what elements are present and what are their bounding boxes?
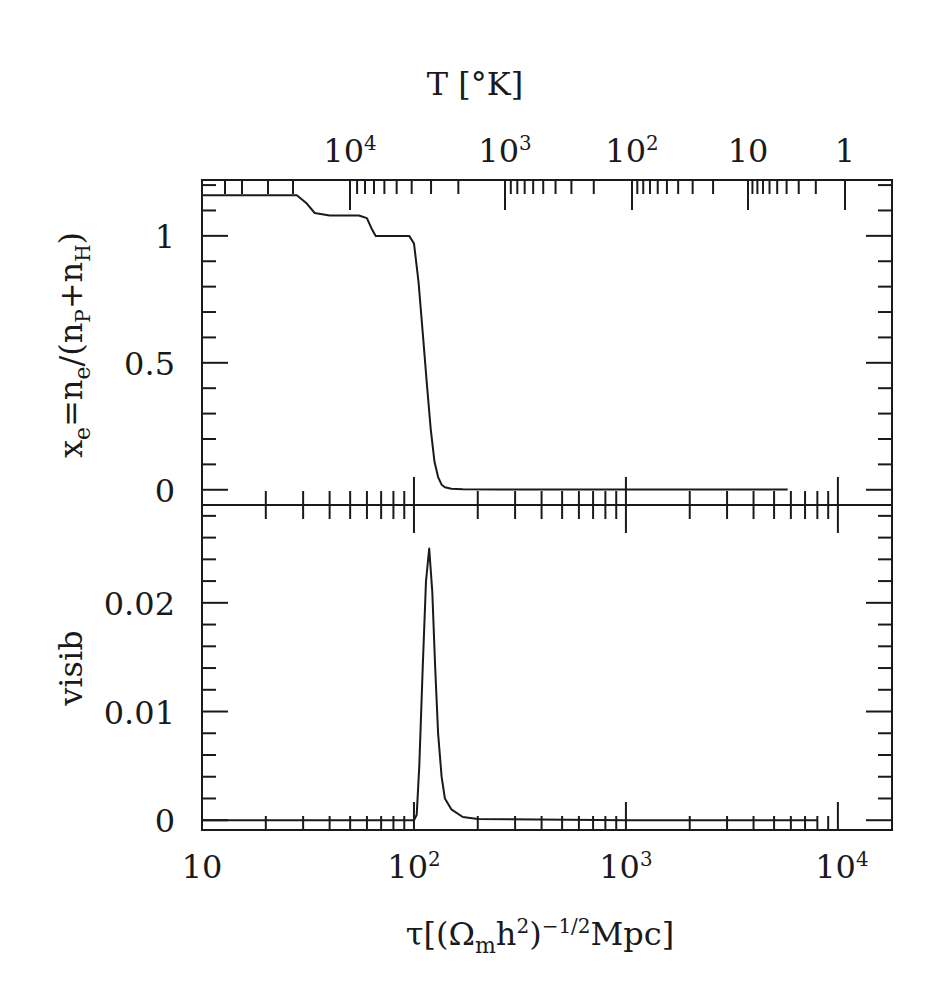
xe-curve bbox=[202, 195, 788, 489]
data-curves bbox=[202, 195, 817, 820]
axis-labels: T [°K]10410310210100.5100.010.0210102103… bbox=[52, 65, 869, 958]
y-top-axis-title: xe=ne/(nP+nH) bbox=[52, 232, 95, 458]
y-top-tick-label: 1 bbox=[155, 218, 175, 256]
x-tick-label: 102 bbox=[387, 848, 440, 886]
x-axis-title: τ[(Ωmh2)−1/2Mpc] bbox=[406, 914, 675, 958]
top-tick-label: 102 bbox=[605, 132, 658, 170]
top-tick-label: 10 bbox=[728, 132, 769, 170]
y-bottom-tick-label: 0.02 bbox=[104, 585, 175, 623]
y-bottom-tick-label: 0 bbox=[155, 802, 175, 840]
visibility-curve bbox=[202, 549, 817, 821]
recombination-chart: T [°K]10410310210100.5100.010.0210102103… bbox=[0, 0, 936, 999]
x-tick-label: 10 bbox=[182, 848, 223, 886]
y-top-tick-label: 0.5 bbox=[124, 345, 175, 383]
plot-frame bbox=[202, 180, 892, 830]
top-tick-label: 103 bbox=[478, 132, 531, 170]
x-tick-label: 104 bbox=[815, 848, 868, 886]
top-axis-title: T [°K] bbox=[427, 65, 523, 103]
x-tick-label: 103 bbox=[599, 848, 652, 886]
y-bottom-axis-title: visib bbox=[52, 630, 90, 706]
top-tick-label: 104 bbox=[323, 132, 376, 170]
y-bottom-tick-label: 0.01 bbox=[104, 694, 175, 732]
top-tick-label: 1 bbox=[835, 132, 855, 170]
y-top-tick-label: 0 bbox=[155, 472, 175, 510]
